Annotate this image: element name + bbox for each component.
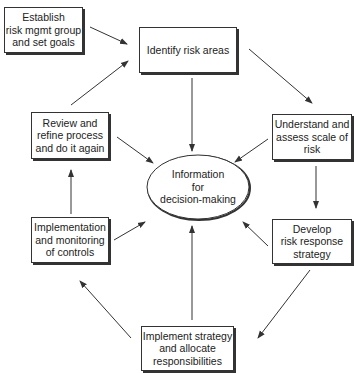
node-review-label: Review and refine process and do it agai… xyxy=(36,117,105,155)
arrow-implement-strategy-to-implementation xyxy=(80,281,131,338)
node-develop: Develop risk response strategy xyxy=(272,219,352,264)
node-review: Review and refine process and do it agai… xyxy=(31,112,109,159)
node-implement-strategy-label: Implement strategy and allocate responsi… xyxy=(143,330,232,368)
arrow-establish-to-identify xyxy=(90,27,127,44)
node-establish: Establish risk mgmt group and set goals xyxy=(4,7,83,53)
node-identify: Identify risk areas xyxy=(139,27,237,73)
arrow-implementation-to-center xyxy=(114,222,145,240)
arrow-review-to-identify xyxy=(71,61,128,105)
arrow-develop-to-implement-strategy xyxy=(258,270,310,338)
node-understand-label: Understand and assess scale of risk xyxy=(275,118,350,156)
center-label-text: Information for decision-making xyxy=(160,168,236,206)
arrow-identify-to-understand xyxy=(249,49,312,103)
node-implement-strategy: Implement strategy and allocate responsi… xyxy=(141,326,234,371)
node-understand: Understand and assess scale of risk xyxy=(272,114,352,160)
node-implementation: Implementation and monitoring of control… xyxy=(31,217,109,263)
node-identify-label: Identify risk areas xyxy=(147,44,229,57)
node-implementation-label: Implementation and monitoring of control… xyxy=(34,221,106,259)
node-develop-label: Develop risk response strategy xyxy=(281,223,343,261)
node-establish-label: Establish risk mgmt group and set goals xyxy=(6,11,81,49)
arrow-develop-to-center xyxy=(243,222,268,246)
center-label: Information for decision-making xyxy=(148,156,248,218)
